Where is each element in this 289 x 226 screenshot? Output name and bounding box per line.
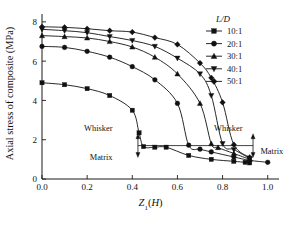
datapoint-20-1-8 [198, 147, 203, 152]
y-tick-label-3: 6 [33, 57, 38, 67]
datapoint-50-1-3 [107, 28, 112, 34]
datapoint-20-1-9 [209, 150, 214, 155]
legend-item-40-1[interactable]: 40:1 [206, 64, 242, 74]
x-tick-label-5: 1.0 [262, 182, 274, 192]
legend-marker-circle [211, 41, 216, 46]
datapoint-20-1-0 [40, 44, 45, 49]
series-50-1 [39, 24, 252, 160]
datapoint-30-1-7 [197, 101, 202, 106]
left-arrow-head-down [136, 152, 140, 157]
x-tick-label-2: 0.4 [127, 182, 139, 192]
datapoint-30-1-8 [209, 141, 214, 146]
legend-item-30-1[interactable]: 30:1 [206, 51, 242, 61]
y-tick-label-4: 8 [33, 17, 38, 27]
legend-item-20-1[interactable]: 20:1 [206, 39, 242, 49]
datapoint-10-1-10 [209, 157, 213, 161]
datapoint-40-1-6 [175, 56, 180, 61]
datapoint-50-1-5 [152, 35, 157, 41]
datapoint-10-1-1 [62, 83, 66, 87]
series-line-0 [42, 83, 250, 163]
datapoint-20-1-4 [130, 64, 135, 69]
datapoint-10-1-3 [108, 93, 112, 97]
y-tick-label-1: 2 [33, 135, 38, 145]
datapoint-50-1-9 [220, 100, 225, 106]
datapoint-40-1-8 [209, 93, 214, 98]
series-10-1 [40, 81, 252, 165]
datapoint-20-1-2 [85, 49, 90, 54]
figure-container: Axial stress of composite (MPa) 024680.0… [0, 0, 289, 226]
datapoint-30-1-5 [152, 54, 157, 59]
whisker-right-label: Whisker [214, 124, 243, 133]
legend-label-3: 40:1 [227, 64, 242, 74]
matrix-left-label: Matrix [90, 153, 114, 162]
datapoint-10-1-0 [40, 81, 44, 85]
whisker-left-label: Whisker [84, 124, 113, 133]
annotations-group: WhiskerMatrixWhiskerMatrix [84, 124, 284, 162]
legend-label-4: 50:1 [227, 76, 242, 86]
datapoint-20-1-3 [107, 55, 112, 60]
chart-plot: 024680.00.20.40.60.81.0Z1(H) WhiskerMatr… [0, 0, 289, 226]
y-tick-label-2: 4 [33, 96, 38, 106]
x-tick-label-0: 0.0 [36, 182, 48, 192]
datapoint-10-1-6 [141, 144, 145, 148]
legend-label-1: 20:1 [227, 39, 242, 49]
right-arrow-head-up [251, 134, 255, 139]
datapoint-50-1-6 [175, 42, 180, 48]
x-tick-label-1: 0.2 [82, 182, 93, 192]
datapoint-20-1-6 [175, 101, 180, 106]
x-tick-label-3: 0.6 [172, 182, 184, 192]
datapoint-10-1-4 [130, 108, 134, 112]
x-axis-title: Z1(H) [139, 197, 163, 212]
x-tick-label-4: 0.8 [217, 182, 229, 192]
series-line-4 [42, 27, 250, 158]
datapoint-50-1-4 [130, 29, 135, 35]
datapoint-10-1-11 [232, 159, 236, 163]
datapoint-20-1-12 [265, 160, 270, 165]
legend-item-10-1[interactable]: 10:1 [206, 26, 242, 36]
datapoint-10-1-2 [85, 87, 89, 91]
datapoint-20-1-1 [62, 45, 67, 50]
datapoint-10-1-12 [243, 160, 247, 164]
series-40-1 [39, 27, 252, 161]
legend-title: L/D [215, 14, 231, 24]
legend-label-0: 10:1 [227, 26, 242, 36]
datapoint-10-1-9 [187, 153, 191, 157]
series-line-2 [42, 36, 250, 160]
datapoint-20-1-5 [153, 77, 158, 82]
datapoint-50-1-10 [231, 142, 236, 148]
matrix-right-label: Matrix [260, 147, 284, 156]
legend-marker-square [212, 29, 217, 34]
legend-label-2: 30:1 [227, 51, 242, 61]
